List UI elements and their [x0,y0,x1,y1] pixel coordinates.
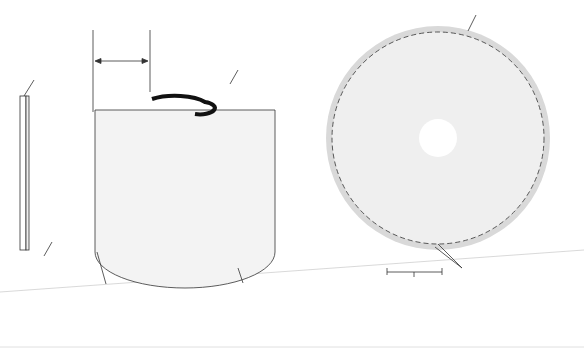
access-mechanism [20,96,29,250]
side-view-platter-stack [95,110,275,288]
disk-storage-diagram [0,0,584,354]
top-view-disk [326,15,550,277]
background-lines [0,250,584,347]
